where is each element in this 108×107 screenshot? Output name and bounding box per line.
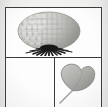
puffball-illustration <box>6 8 100 56</box>
puffball-body <box>18 12 80 50</box>
leaf-blade <box>61 64 94 91</box>
figure-screenshot <box>0 0 108 107</box>
leaf-petiole <box>60 91 72 103</box>
figure-plate-frame <box>5 7 102 107</box>
panel-bottom-right <box>55 58 101 107</box>
panel-top <box>6 8 101 58</box>
cordate-leaf-illustration <box>55 58 101 107</box>
panel-bottom-row <box>6 58 101 107</box>
panel-bottom-left <box>6 58 55 107</box>
